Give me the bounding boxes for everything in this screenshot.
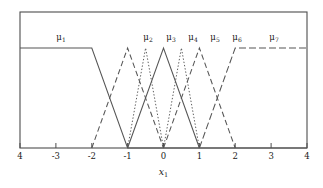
curve-label-mu-5: μ5 <box>210 33 219 42</box>
curve-mu-6 <box>164 48 236 148</box>
x-tick-label-2: 2 <box>232 152 237 161</box>
x-tick-label-3: 3 <box>268 152 273 161</box>
curve-mu-2 <box>92 48 164 148</box>
curve-label-mu-1: μ1 <box>56 33 65 42</box>
curve-label-mu-6: μ6 <box>232 33 241 42</box>
curve-mu-1 <box>20 48 307 148</box>
curve-label-mu-3: μ3 <box>166 33 175 42</box>
x-axis-label: x1 <box>159 167 169 177</box>
curve-mu-4 <box>128 48 200 148</box>
membership-curves <box>20 48 307 148</box>
x-tick-label-4: 4 <box>304 152 309 161</box>
x-tick-label--2: -2 <box>88 152 96 161</box>
curve-label-mu-2: μ2 <box>143 33 152 42</box>
x-tick-label-0: 0 <box>161 152 166 161</box>
x-tick-label--4: 4 <box>17 152 22 161</box>
curve-mu-7 <box>199 48 307 148</box>
x-tick-label-1: 1 <box>197 152 202 161</box>
x-tick-label--1: -1 <box>123 152 131 161</box>
curve-label-mu-4: μ4 <box>188 33 197 42</box>
curve-label-mu-7: μ7 <box>269 33 278 42</box>
membership-function-figure: μ1 μ2 μ3 μ4 μ5 μ6 μ7 4 -3 -2 -1 0 1 2 3 … <box>0 0 323 188</box>
x-tick-label--3: -3 <box>52 152 60 161</box>
